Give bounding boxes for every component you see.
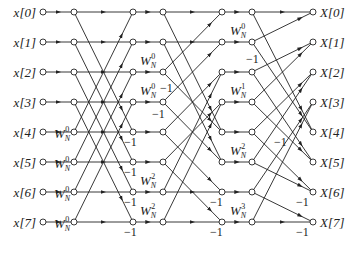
twiddle-factor-label: WN2 (140, 202, 157, 220)
input-node (40, 159, 46, 165)
node (219, 159, 225, 165)
node (130, 9, 136, 15)
labels-layer: x[0]x[1]x[2]x[3]x[4]x[5]x[6]x[7]X[0]X[1]… (13, 5, 345, 240)
edges-layer (46, 12, 312, 222)
input-node (40, 219, 46, 225)
butterfly-edge (255, 43, 311, 70)
butterfly-edge (254, 44, 311, 100)
minus-one-label: −1 (274, 135, 287, 149)
node (249, 159, 255, 165)
twiddle-factor-label: WN2 (140, 172, 157, 190)
input-node (40, 39, 46, 45)
twiddle-factor-label: WN0 (54, 215, 71, 233)
node (71, 39, 77, 45)
twiddle-factor-label: WN3 (230, 202, 247, 220)
output-node (310, 189, 316, 195)
output-node (310, 9, 316, 15)
input-label: x[6] (13, 185, 36, 200)
node (71, 189, 77, 195)
output-label: X[5] (319, 155, 345, 170)
twiddle-factor-label: WN2 (230, 142, 247, 160)
node (130, 39, 136, 45)
input-node (40, 69, 46, 75)
node (71, 129, 77, 135)
input-node (40, 189, 46, 195)
output-label: X[2] (319, 65, 345, 80)
node (160, 69, 166, 75)
node (160, 159, 166, 165)
output-label: X[4] (319, 125, 345, 140)
input-label: x[5] (13, 155, 36, 170)
twiddle-factor-label: WN0 (54, 185, 71, 203)
node (160, 189, 166, 195)
node (160, 39, 166, 45)
input-node (40, 99, 46, 105)
node (249, 9, 255, 15)
butterfly-edge (255, 163, 311, 190)
minus-one-label: −1 (246, 52, 259, 66)
input-label: x[7] (13, 215, 36, 230)
fft-flow-graph: x[0]x[1]x[2]x[3]x[4]x[5]x[6]x[7]X[0]X[1]… (0, 0, 356, 253)
node (160, 219, 166, 225)
minus-one-label: −1 (296, 195, 309, 209)
output-label: X[3] (319, 95, 345, 110)
output-node (310, 129, 316, 135)
minus-one-label: −1 (160, 81, 173, 95)
node (71, 219, 77, 225)
butterfly-edge (254, 74, 311, 130)
butterfly-edge (254, 104, 311, 160)
node (71, 69, 77, 75)
node (219, 39, 225, 45)
node (160, 129, 166, 135)
output-label: X[7] (319, 215, 345, 230)
input-label: x[0] (13, 5, 36, 20)
node (249, 99, 255, 105)
node (160, 9, 166, 15)
twiddle-factor-label: WN0 (54, 155, 71, 173)
output-label: X[1] (319, 35, 345, 50)
minus-one-label: −1 (296, 225, 309, 239)
node (130, 69, 136, 75)
node (71, 9, 77, 15)
node (219, 9, 225, 15)
minus-one-label: −1 (124, 195, 137, 209)
node (130, 99, 136, 105)
minus-one-label: −1 (152, 107, 165, 121)
input-label: x[4] (13, 125, 36, 140)
output-node (310, 159, 316, 165)
node (249, 189, 255, 195)
node (249, 129, 255, 135)
input-label: x[1] (13, 35, 36, 50)
node (249, 219, 255, 225)
node (249, 39, 255, 45)
input-node (40, 9, 46, 15)
minus-one-label: −1 (210, 195, 223, 209)
twiddle-factor-label: WN0 (230, 22, 247, 40)
input-label: x[2] (13, 65, 36, 80)
minus-one-label: −1 (210, 225, 223, 239)
output-label: X[6] (319, 185, 345, 200)
node (249, 69, 255, 75)
node (71, 99, 77, 105)
minus-one-label: −1 (124, 225, 137, 239)
twiddle-factor-label: WN1 (230, 82, 247, 100)
butterfly-edge (255, 13, 311, 40)
twiddle-factor-label: WN0 (140, 52, 157, 70)
minus-one-label: −1 (124, 135, 137, 149)
node (71, 159, 77, 165)
output-node (310, 69, 316, 75)
minus-one-label: −1 (124, 165, 137, 179)
output-node (310, 99, 316, 105)
twiddle-factor-label: WN0 (54, 125, 71, 143)
output-node (310, 219, 316, 225)
input-node (40, 129, 46, 135)
input-label: x[3] (13, 95, 36, 110)
output-label: X[0] (319, 5, 345, 20)
node (219, 129, 225, 135)
node (219, 69, 225, 75)
butterfly-edge (165, 44, 220, 100)
twiddle-factor-label: WN0 (140, 82, 157, 100)
output-node (310, 39, 316, 45)
node (160, 99, 166, 105)
node (219, 99, 225, 105)
